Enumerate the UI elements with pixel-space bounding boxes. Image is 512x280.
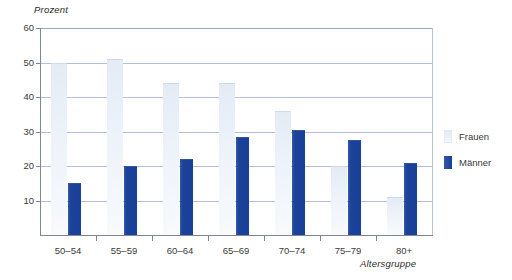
bar-maenner-75–79: [348, 140, 361, 235]
x-tick-label-55–59: 55–59: [111, 245, 137, 256]
x-tick-label-80+: 80+: [396, 245, 412, 256]
bar-frauen-75–79: [331, 166, 347, 235]
bar-maenner-70–74: [292, 130, 305, 235]
x-tick-mark-2: [152, 236, 153, 241]
bar-maenner-60–64: [180, 159, 193, 235]
y-tick-label-10: 10: [10, 195, 34, 206]
bar-maenner-55–59: [124, 166, 137, 235]
x-tick-mark-5: [320, 236, 321, 241]
y-tick-label-60: 60: [10, 22, 34, 33]
bar-frauen-55–59: [107, 59, 123, 235]
bar-frauen-60–64: [163, 83, 179, 235]
plot-right-border: [432, 28, 433, 236]
bar-frauen-80+: [387, 197, 403, 235]
bar-maenner-50–54: [68, 183, 81, 235]
x-axis-line: [40, 235, 433, 236]
y-tick-label-20: 20: [10, 160, 34, 171]
y-tick-label-30: 30: [10, 126, 34, 137]
bars-layer: [40, 28, 432, 235]
bar-chart: Prozent 102030405060 50–5455–5960–6465–6…: [0, 0, 512, 280]
bar-frauen-70–74: [275, 111, 291, 235]
bar-frauen-50–54: [51, 63, 67, 236]
x-axis-title: Altersgruppe: [360, 258, 416, 269]
x-tick-mark-1: [96, 236, 97, 241]
chart-legend: FrauenMänner: [444, 130, 491, 182]
y-axis-title: Prozent: [34, 4, 68, 15]
legend-item-frauen: Frauen: [444, 130, 491, 143]
x-tick-label-75–79: 75–79: [335, 245, 361, 256]
x-tick-label-60–64: 60–64: [167, 245, 193, 256]
x-tick-label-50–54: 50–54: [55, 245, 81, 256]
legend-label-frauen: Frauen: [459, 131, 489, 142]
legend-swatch-frauen: [444, 130, 452, 143]
legend-item-männer: Männer: [444, 156, 491, 169]
bar-frauen-65–69: [219, 83, 235, 235]
legend-label-männer: Männer: [459, 157, 491, 168]
bar-maenner-80+: [404, 163, 417, 235]
y-tick-label-50: 50: [10, 57, 34, 68]
x-tick-label-70–74: 70–74: [279, 245, 305, 256]
x-tick-label-65–69: 65–69: [223, 245, 249, 256]
x-tick-mark-6: [376, 236, 377, 241]
x-tick-mark-4: [264, 236, 265, 241]
x-tick-mark-3: [208, 236, 209, 241]
y-tick-label-40: 40: [10, 91, 34, 102]
legend-swatch-männer: [444, 156, 452, 169]
bar-maenner-65–69: [236, 137, 249, 235]
